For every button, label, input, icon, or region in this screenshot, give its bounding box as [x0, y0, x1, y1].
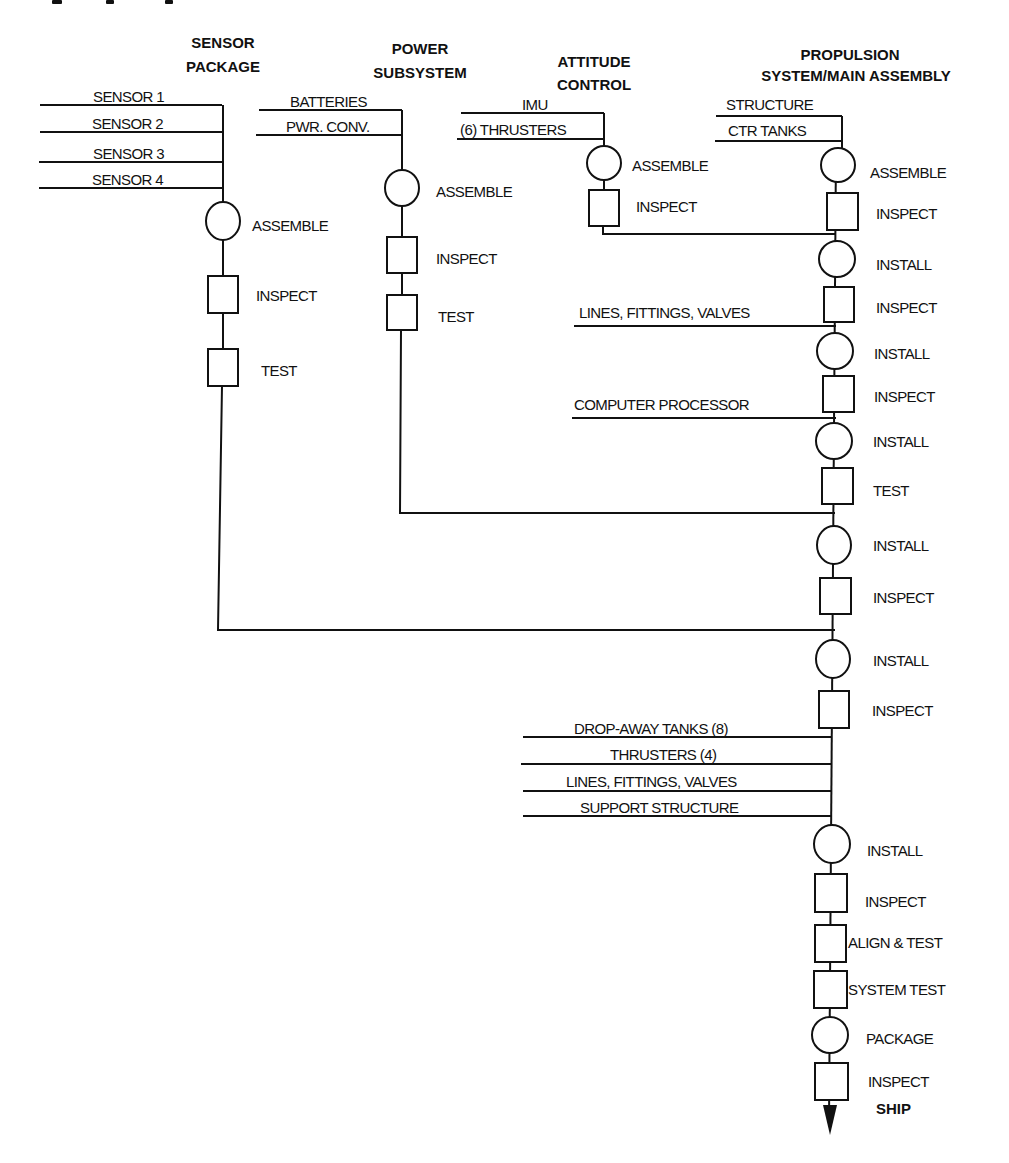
- main-header-line2: SYSTEM/MAIN ASSEMBLY: [761, 67, 951, 84]
- main-assemble-circle: [821, 148, 855, 182]
- main-inspect-square-3: [823, 376, 854, 412]
- sensor-1-label: SENSOR 1: [93, 88, 164, 105]
- main-install-label-5: INSTALL: [873, 652, 929, 669]
- main-install-circle-6: [814, 825, 850, 863]
- lines-fittings-valves-label-1: LINES, FITTINGS, VALVES: [579, 304, 750, 321]
- main-install-label-2: INSTALL: [874, 345, 930, 362]
- sensor-package-branch: SENSOR PACKAGE SENSOR 1 SENSOR 2 SENSOR …: [39, 34, 835, 630]
- attitude-inspect-square: [589, 190, 619, 226]
- main-install-circle-4: [817, 526, 851, 564]
- power-test-label: TEST: [438, 308, 474, 325]
- attitude-to-main-connector: [603, 226, 836, 234]
- main-install-label-4: INSTALL: [873, 537, 929, 554]
- main-install-label-6: INSTALL: [867, 842, 923, 859]
- thrusters-6-label: (6) THRUSTERS: [460, 121, 567, 138]
- power-to-main-connector: [400, 330, 835, 513]
- ship-arrow-icon: [823, 1105, 837, 1135]
- power-assemble-label: ASSEMBLE: [436, 183, 513, 200]
- main-install-circle-3: [816, 423, 852, 459]
- main-test-label: TEST: [873, 482, 909, 499]
- main-inspect-square-4: [820, 578, 851, 614]
- main-inspect-label-2: INSPECT: [876, 299, 937, 316]
- sensor-assemble-circle: [206, 202, 240, 240]
- main-install-label-3: INSTALL: [873, 433, 929, 450]
- main-inspect-square-2: [824, 287, 854, 322]
- sensor-test-label: TEST: [261, 362, 297, 379]
- lines-fittings-valves-label-2: LINES, FITTINGS, VALVES: [566, 773, 737, 790]
- sensor-inspect-square: [208, 276, 238, 313]
- main-package-label: PACKAGE: [866, 1030, 934, 1047]
- attitude-inspect-label: INSPECT: [636, 198, 697, 215]
- main-inspect-label-4: INSPECT: [873, 589, 934, 606]
- main-align-test-label: ALIGN & TEST: [848, 934, 943, 951]
- attitude-header-line1: ATTITUDE: [557, 53, 630, 70]
- attitude-assemble-circle: [587, 146, 621, 180]
- computer-processor-label: COMPUTER PROCESSOR: [574, 396, 750, 413]
- power-header-line2: SUBSYSTEM: [373, 64, 466, 81]
- main-install-circle-5: [816, 640, 850, 678]
- imu-label: IMU: [522, 96, 548, 113]
- main-inspect-label-3: INSPECT: [874, 388, 935, 405]
- main-package-circle: [812, 1017, 848, 1053]
- ship-label: SHIP: [876, 1100, 911, 1117]
- main-inspect-square-5: [819, 691, 849, 728]
- power-header-line1: POWER: [392, 40, 449, 57]
- thrusters-4-label: THRUSTERS (4): [610, 746, 717, 763]
- power-inspect-label: INSPECT: [436, 250, 497, 267]
- sensor-assemble-label: ASSEMBLE: [252, 217, 329, 234]
- power-test-square: [387, 295, 417, 330]
- sensor-3-label: SENSOR 3: [93, 145, 164, 162]
- main-test-square: [822, 468, 853, 504]
- main-inspect-square-6: [815, 874, 847, 912]
- main-inspect-label-6: INSPECT: [865, 893, 926, 910]
- main-install-circle-1: [819, 241, 855, 277]
- main-assemble-label: ASSEMBLE: [870, 164, 947, 181]
- attitude-header-line2: CONTROL: [557, 76, 631, 93]
- main-inspect-square-1: [827, 193, 858, 230]
- main-header-line1: PROPULSION: [800, 46, 899, 63]
- main-install-label-1: INSTALL: [876, 256, 932, 273]
- support-structure-label: SUPPORT STRUCTURE: [580, 799, 739, 816]
- batteries-label: BATTERIES: [290, 93, 367, 110]
- drop-away-tanks-label: DROP-AWAY TANKS (8): [574, 720, 729, 737]
- ctr-tanks-label: CTR TANKS: [728, 122, 807, 139]
- main-inspect-label-1: INSPECT: [876, 205, 937, 222]
- sensor-to-main-connector: [218, 386, 835, 630]
- main-system-test-square: [814, 971, 847, 1008]
- sensor-4-label: SENSOR 4: [92, 171, 163, 188]
- main-inspect-square-7: [815, 1063, 848, 1100]
- main-assembly-branch: PROPULSION SYSTEM/MAIN ASSEMBLY STRUCTUR…: [521, 46, 951, 1135]
- assembly-flow-diagram: SENSOR PACKAGE SENSOR 1 SENSOR 2 SENSOR …: [0, 0, 1009, 1163]
- sensor-2-label: SENSOR 2: [92, 115, 163, 132]
- main-inspect-label-5: INSPECT: [872, 702, 933, 719]
- sensor-header-line1: SENSOR: [191, 34, 255, 51]
- main-align-test-square: [815, 925, 846, 962]
- main-install-circle-2: [817, 333, 853, 369]
- power-inspect-square: [387, 237, 417, 273]
- main-inspect-label-7: INSPECT: [868, 1073, 929, 1090]
- sensor-test-square: [208, 349, 238, 386]
- power-assemble-circle: [385, 170, 419, 206]
- main-system-test-label: SYSTEM TEST: [848, 981, 946, 998]
- structure-label: STRUCTURE: [726, 96, 814, 113]
- pwr-conv-label: PWR. CONV.: [286, 118, 369, 135]
- attitude-assemble-label: ASSEMBLE: [632, 157, 709, 174]
- sensor-header-line2: PACKAGE: [186, 58, 260, 75]
- sensor-inspect-label: INSPECT: [256, 287, 317, 304]
